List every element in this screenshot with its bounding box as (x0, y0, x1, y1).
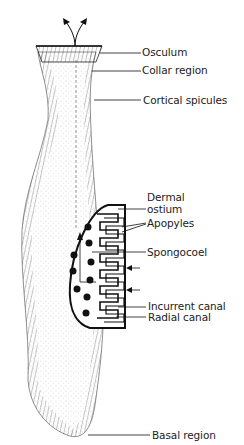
label-spongocoel: Spongocoel (147, 247, 207, 258)
sponge-diagram: Osculum Collar region Cortical spicules … (0, 0, 244, 445)
label-dermal-ostium-line1: Dermal (147, 192, 185, 203)
label-basal-region: Basal region (152, 430, 216, 441)
label-collar-region: Collar region (142, 65, 208, 76)
label-osculum: Osculum (142, 47, 187, 58)
label-cortical-spicules: Cortical spicules (143, 95, 227, 106)
label-radial-canal: Radial canal (148, 312, 211, 323)
label-dermal-ostium-line2: ostium (147, 204, 182, 215)
outflow-arrows-icon (63, 18, 87, 46)
label-apopyles: Apopyles (147, 218, 194, 229)
